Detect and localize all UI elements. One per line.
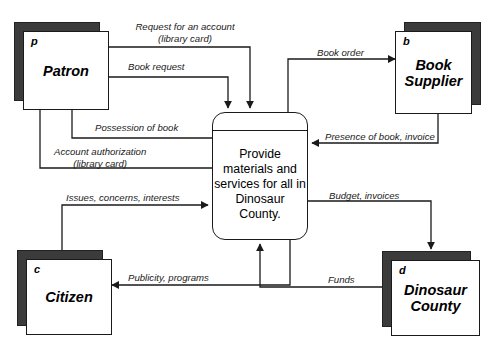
entity-name-citizen: Citizen (27, 289, 111, 305)
entity-id-patron: p (31, 36, 38, 47)
flow-label-account-authorization: Account authorization (library card) (54, 146, 146, 171)
flow-line-book-request (100, 77, 228, 108)
flow-label-request-account: Request for an account (library card) (110, 21, 260, 46)
flow-line-book-order (288, 59, 395, 112)
flow-label-line1: Possession of book (95, 122, 178, 134)
flow-label-line1: Publicity, programs (128, 272, 209, 284)
entity-patron[interactable]: p Patron (14, 22, 100, 101)
flow-label-presence-of-book-invoice: Presence of book, invoice (325, 131, 435, 143)
flow-line-funds (260, 244, 388, 287)
flow-label-line2: (library card) (110, 33, 260, 45)
entity-name-book-supplier: Book Supplier (396, 56, 471, 88)
entity-face: b Book Supplier (395, 31, 472, 114)
entity-name-patron: Patron (24, 62, 108, 78)
entity-book-supplier[interactable]: b Book Supplier (404, 22, 481, 105)
flow-label-publicity-programs: Publicity, programs (128, 272, 209, 284)
entity-face: p Patron (23, 31, 109, 110)
flow-label-book-request: Book request (128, 61, 185, 73)
flow-label-line1: Account authorization (54, 146, 146, 158)
flow-label-issues-concerns-interests: Issues, concerns, interests (66, 192, 180, 204)
entity-id-citizen: c (34, 264, 40, 275)
entity-id-book-supplier: b (403, 36, 410, 47)
entity-face: c Citizen (26, 259, 112, 335)
flow-label-budget-invoices: Budget, invoices (329, 190, 399, 202)
flow-label-line1: Funds (328, 274, 355, 286)
flow-label-possession-of-book: Possession of book (95, 122, 178, 134)
process-label: Provide materials and services for all i… (213, 130, 307, 239)
flow-line-budget-invoices (308, 201, 431, 249)
flow-label-line1: Budget, invoices (329, 190, 399, 202)
entity-dinosaur-county[interactable]: d Dinosaur County (382, 251, 471, 327)
flow-label-line1: Presence of book, invoice (325, 131, 435, 143)
entity-face: d Dinosaur County (391, 260, 480, 336)
entity-citizen[interactable]: c Citizen (17, 250, 103, 326)
flow-label-book-order: Book order (317, 47, 364, 59)
flow-label-line1: Book order (317, 47, 364, 59)
flow-line-issues-concerns-interests (62, 205, 208, 250)
flow-label-line1: Book request (128, 61, 185, 73)
flow-label-funds: Funds (328, 274, 355, 286)
entity-name-dinosaur-county: Dinosaur County (392, 282, 479, 314)
context-diagram-canvas: Provide materials and services for all i… (0, 0, 490, 338)
flow-label-line1: Issues, concerns, interests (66, 192, 180, 204)
process-node[interactable]: Provide materials and services for all i… (212, 112, 308, 240)
flow-label-line2: (library card) (54, 158, 146, 170)
flow-label-line1: Request for an account (110, 21, 260, 33)
entity-id-dinosaur-county: d (399, 265, 406, 276)
